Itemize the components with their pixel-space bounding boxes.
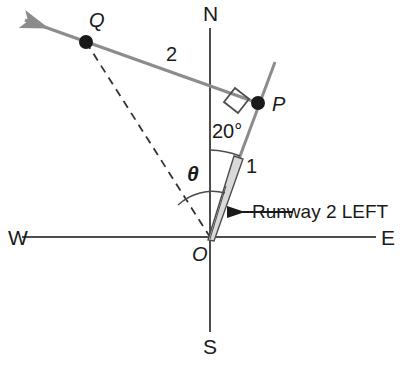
diagram-canvas (0, 0, 401, 366)
compass-label-west: W (8, 227, 28, 248)
dashed-line-qo (86, 42, 210, 237)
compass-axes (22, 28, 376, 332)
point-dot-q (79, 35, 93, 49)
runway-bearing-diagram: N S W E O P Q 2 1 20° θ Runway 2 LEFT (0, 0, 401, 366)
point-label-origin: O (192, 244, 208, 264)
point-label-q: Q (89, 10, 105, 30)
angle-label-theta: θ (187, 163, 199, 184)
runway-strip (208, 156, 243, 241)
segment-label-pq: 2 (166, 44, 177, 64)
compass-label-east: E (381, 227, 395, 248)
compass-label-north: N (203, 3, 218, 24)
segment-label-op: 1 (246, 156, 257, 176)
ray-pq-arrow (25, 20, 258, 103)
runway-annotation-label: Runway 2 LEFT (252, 202, 388, 221)
angle-arc-20 (210, 150, 240, 156)
compass-label-south: S (203, 336, 217, 357)
point-label-p: P (272, 94, 285, 114)
point-dot-p (251, 96, 265, 110)
angle-label-bearing: 20° (212, 121, 242, 141)
